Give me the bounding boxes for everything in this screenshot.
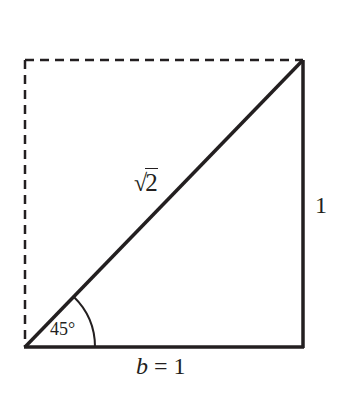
- hypotenuse-segment: [25, 60, 303, 347]
- angle-arc: [74, 297, 95, 347]
- base-label: b = 1: [136, 354, 186, 378]
- angle-label: 45°: [50, 320, 75, 338]
- radicand: 2: [145, 168, 158, 195]
- base-value: = 1: [148, 353, 186, 379]
- base-variable: b: [136, 353, 148, 379]
- vertical-side-label: 1: [315, 193, 327, 217]
- hypotenuse-label: √2: [134, 168, 158, 195]
